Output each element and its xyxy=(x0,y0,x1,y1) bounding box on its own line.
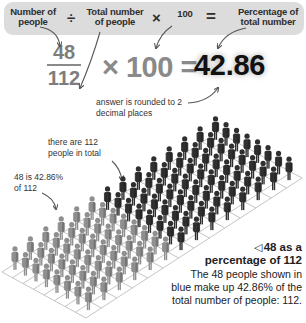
arrow-to-result xyxy=(218,28,246,48)
caption-title-line: 48 as a xyxy=(264,241,302,253)
person xyxy=(233,128,240,152)
person xyxy=(243,134,250,158)
person xyxy=(275,151,282,175)
triangle-marker-icon: ◁ xyxy=(254,241,262,254)
arrow-rounding xyxy=(188,88,218,103)
person xyxy=(150,156,157,180)
person-highlighted xyxy=(73,206,80,230)
person xyxy=(285,157,292,181)
caption-title-line: percentage of 112 xyxy=(132,254,302,267)
person-highlighted xyxy=(42,226,49,250)
caption-body-line: blue make up 42.86% of the xyxy=(132,281,302,294)
arrow-total xyxy=(112,161,122,180)
arrow-to-denominator xyxy=(80,32,100,88)
person-highlighted xyxy=(58,216,65,240)
person xyxy=(212,116,219,140)
arrow-to-100 xyxy=(156,26,172,48)
person xyxy=(197,126,204,150)
caption-body-line: total number of people: 112. xyxy=(132,294,302,307)
caption-body: The 48 people shown in blue make up 42.8… xyxy=(132,268,302,307)
caption: ◁48 as a percentage of 112 The 48 people… xyxy=(132,241,302,307)
person xyxy=(264,145,271,169)
person xyxy=(104,186,111,210)
person xyxy=(166,146,173,170)
arrow-part xyxy=(42,193,56,209)
arrow-to-numerator xyxy=(40,27,60,46)
person xyxy=(119,176,126,200)
person xyxy=(222,122,229,146)
person xyxy=(254,139,261,163)
person xyxy=(135,166,142,190)
caption-body-line: The 48 people shown in xyxy=(132,268,302,281)
person xyxy=(181,136,188,160)
caption-title: ◁48 as a xyxy=(132,241,302,254)
person-highlighted xyxy=(11,246,18,270)
person-highlighted xyxy=(89,196,96,220)
person-highlighted xyxy=(27,236,34,260)
